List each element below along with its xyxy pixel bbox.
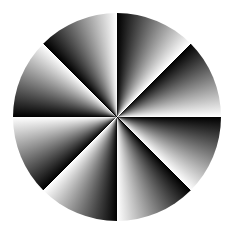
conic-gradient-wheel — [13, 13, 221, 221]
